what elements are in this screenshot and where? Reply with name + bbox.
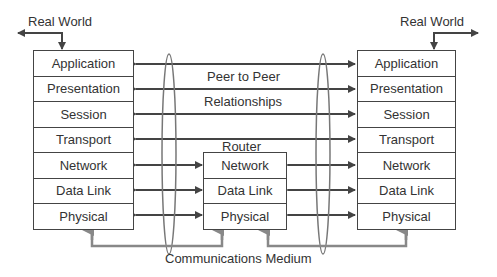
right-layer-application: Application <box>358 51 455 77</box>
medium-arrows <box>92 230 406 246</box>
right-real-world-label: Real World <box>400 14 464 29</box>
right-layer-network: Network <box>358 153 455 179</box>
peer-label-line1: Peer to Peer <box>207 69 280 84</box>
left-osi-stack: Application Presentation Session Transpo… <box>33 50 134 230</box>
left-layer-presentation: Presentation <box>34 77 133 103</box>
router-layer-network: Network <box>204 153 286 179</box>
right-osi-stack: Application Presentation Session Transpo… <box>357 50 456 230</box>
left-layer-network: Network <box>34 153 133 179</box>
communications-medium-label: Communications Medium <box>165 251 312 266</box>
left-layer-session: Session <box>34 102 133 128</box>
router-layer-data-link: Data Link <box>204 179 286 205</box>
left-ellipse <box>162 54 176 254</box>
right-layer-presentation: Presentation <box>358 77 455 103</box>
right-layer-transport: Transport <box>358 128 455 154</box>
right-layer-data-link: Data Link <box>358 179 455 205</box>
left-layer-data-link: Data Link <box>34 179 133 205</box>
left-layer-application: Application <box>34 51 133 77</box>
real-world-arrow-right <box>434 33 478 49</box>
left-layer-physical: Physical <box>34 204 133 230</box>
router-layer-physical: Physical <box>204 204 286 230</box>
left-layer-transport: Transport <box>34 128 133 154</box>
real-world-arrow-left <box>18 33 62 49</box>
right-layer-physical: Physical <box>358 204 455 230</box>
right-layer-session: Session <box>358 102 455 128</box>
left-real-world-label: Real World <box>28 14 92 29</box>
router-stack: Network Data Link Physical <box>203 152 287 230</box>
peer-label-line2: Relationships <box>204 94 282 109</box>
right-ellipse <box>316 54 330 254</box>
